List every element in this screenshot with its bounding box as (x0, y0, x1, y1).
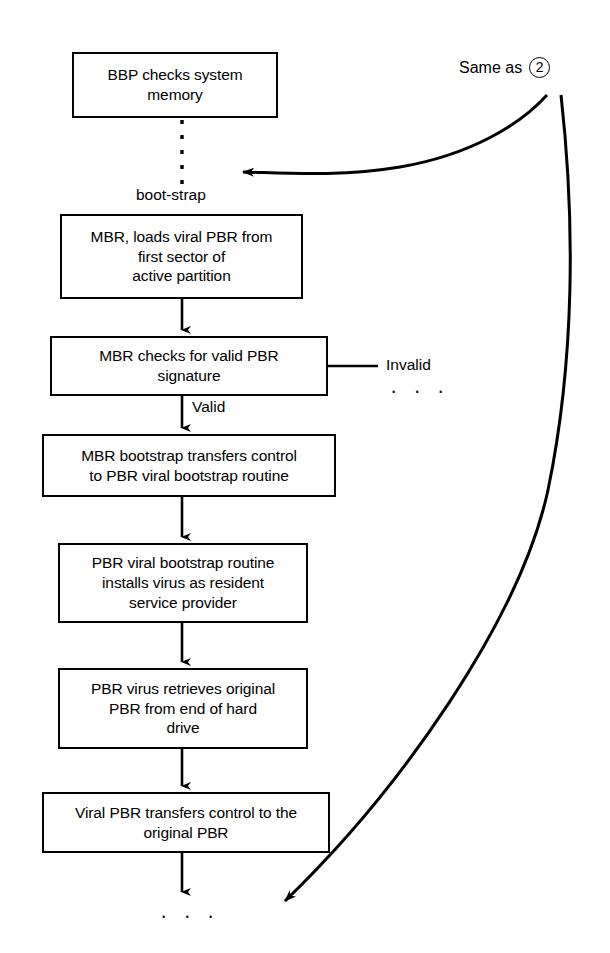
connector-curve-same-as-2-out (285, 95, 570, 901)
flow-node-mbr-bootstrap-transfers-control[interactable]: MBR bootstrap transfers control to PBR v… (42, 434, 336, 497)
edge-label-valid: Valid (192, 398, 225, 417)
flow-node-viral-pbr-transfers-control[interactable]: Viral PBR transfers control to the origi… (42, 792, 330, 853)
diagram-canvas: BBP checks system memory MBR, loads vira… (0, 0, 610, 953)
reference-text: Same as (459, 59, 522, 77)
flow-node-pbr-installs-resident-virus[interactable]: PBR viral bootstrap routine installs vir… (58, 543, 308, 623)
reference-same-as-2: Same as 2 (459, 57, 550, 78)
edge-label-invalid: Invalid (386, 356, 431, 375)
ellipsis-invalid-branch: · · · (390, 380, 449, 402)
flow-node-pbr-retrieves-original-pbr[interactable]: PBR virus retrieves original PBR from en… (58, 668, 308, 749)
flow-node-mbr-loads-viral-pbr[interactable]: MBR, loads viral PBR from first sector o… (60, 214, 303, 299)
flow-node-bbp-checks-system-memory[interactable]: BBP checks system memory (72, 52, 278, 118)
circled-number-icon: 2 (529, 57, 550, 78)
edge-label-boot-strap: boot-strap (136, 186, 206, 205)
connector-curve-same-as-2-in (243, 95, 547, 174)
flow-node-mbr-checks-pbr-signature[interactable]: MBR checks for valid PBR signature (50, 336, 328, 396)
ellipsis-bottom: · · · (160, 905, 219, 927)
